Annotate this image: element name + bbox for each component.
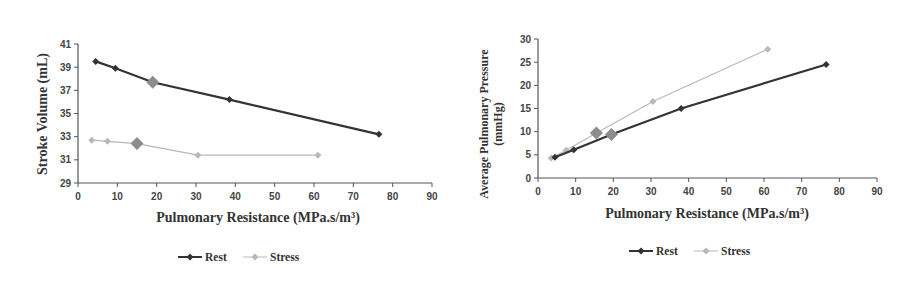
stroke-volume-plot: 293133353739410102030405060708090Pulmona… (0, 0, 455, 284)
x-tick-label: 20 (608, 186, 620, 197)
x-tick-label: 30 (190, 191, 202, 202)
y-tick-label: 29 (60, 178, 72, 189)
y-tick-label: 25 (520, 57, 532, 68)
rest-marker (112, 65, 119, 72)
x-tick-label: 10 (570, 186, 582, 197)
rest-marker (375, 131, 382, 138)
legend-stress-marker (252, 254, 259, 261)
legend-stress-label: Stress (270, 251, 300, 263)
rest-series-line (555, 64, 826, 157)
legend-rest-marker (638, 248, 645, 255)
x-tick-label: 70 (796, 186, 808, 197)
rest-marker (823, 61, 830, 68)
x-tick-label: 90 (871, 186, 883, 197)
rest-marker (226, 96, 233, 103)
stress-marker (764, 46, 771, 53)
x-tick-label: 90 (426, 191, 438, 202)
y-axis-title: Stroke Volume (mL) (35, 53, 51, 175)
legend-stress-label: Stress (721, 245, 751, 257)
stress-marker (104, 138, 111, 145)
highlight-marker (146, 76, 159, 89)
x-tick-label: 20 (151, 191, 163, 202)
rest-series-line (96, 61, 379, 134)
x-tick-label: 80 (834, 186, 846, 197)
stress-marker (314, 152, 321, 159)
pulmonary-pressure-chart: 0510152025300102030405060708090Pulmonary… (455, 0, 911, 284)
x-tick-label: 40 (683, 186, 695, 197)
legend-rest-marker (187, 254, 194, 261)
x-tick-label: 30 (645, 186, 657, 197)
x-tick-label: 60 (308, 191, 320, 202)
stress-series-line (551, 49, 768, 158)
legend: RestStress (629, 245, 751, 257)
rest-marker (92, 58, 99, 65)
legend-rest-label: Rest (656, 245, 678, 257)
y-tick-label: 39 (60, 62, 72, 73)
y-tick-label: 0 (525, 173, 531, 184)
x-axis-title: Pulmonary Resistance (MPa.s/m³) (156, 210, 360, 226)
y-tick-label: 10 (520, 126, 532, 137)
x-tick-label: 10 (112, 191, 124, 202)
y-tick-label: 5 (525, 149, 531, 160)
highlight-marker (131, 137, 144, 150)
x-tick-label: 60 (758, 186, 770, 197)
legend-stress-marker (703, 248, 710, 255)
stroke-volume-chart: 293133353739410102030405060708090Pulmona… (0, 0, 455, 284)
y-tick-label: 41 (60, 39, 72, 50)
x-tick-label: 0 (75, 191, 81, 202)
legend: RestStress (178, 251, 300, 263)
x-tick-label: 50 (269, 191, 281, 202)
stress-marker (194, 152, 201, 159)
y-tick-label: 15 (520, 103, 532, 114)
y-axis-title: Average Pulmonary Pressure (477, 49, 491, 199)
stress-series-line (92, 140, 318, 155)
pulmonary-pressure-plot: 0510152025300102030405060708090Pulmonary… (455, 0, 911, 284)
x-tick-label: 0 (535, 186, 541, 197)
stress-marker (649, 98, 656, 105)
y-tick-label: 20 (520, 80, 532, 91)
x-tick-label: 50 (721, 186, 733, 197)
legend-rest-label: Rest (205, 251, 227, 263)
y-tick-label: 33 (60, 131, 72, 142)
y-tick-label: 31 (60, 154, 72, 165)
y-tick-label: 35 (60, 108, 72, 119)
y-tick-label: 37 (60, 85, 72, 96)
stress-marker (88, 137, 95, 144)
y-axis-title: (mmHg) (491, 102, 505, 145)
rest-marker (678, 105, 685, 112)
y-tick-label: 30 (520, 34, 532, 45)
x-axis-title: Pulmonary Resistance (MPa.s/m³) (605, 206, 809, 222)
x-tick-label: 40 (230, 191, 242, 202)
highlight-marker (605, 128, 618, 141)
x-tick-label: 80 (387, 191, 399, 202)
x-tick-label: 70 (348, 191, 360, 202)
